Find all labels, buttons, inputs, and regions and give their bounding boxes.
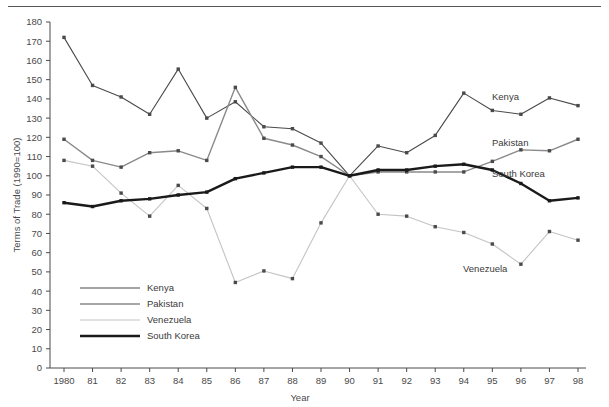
data-point-pakistan-1981 xyxy=(91,159,94,162)
y-axis-tick-label: 60 xyxy=(31,247,42,258)
data-point-pakistan-1993 xyxy=(434,170,437,173)
data-point-kenya-1984 xyxy=(177,67,180,70)
y-axis-tick-label: 130 xyxy=(26,113,42,124)
data-point-venezuela-1996 xyxy=(519,263,522,266)
data-point-south-korea-1989 xyxy=(319,165,322,168)
data-point-kenya-1981 xyxy=(91,84,94,87)
x-axis-tick-label: 98 xyxy=(573,375,584,386)
data-point-pakistan-1989 xyxy=(319,155,322,158)
data-point-venezuela-1995 xyxy=(491,242,494,245)
data-point-venezuela-1998 xyxy=(576,238,579,241)
data-point-south-korea-1980 xyxy=(62,201,65,204)
series-end-label-venezuela: Venezuela xyxy=(463,263,508,274)
data-point-kenya-1997 xyxy=(548,96,551,99)
y-axis-tick-label: 30 xyxy=(31,305,42,316)
data-point-pakistan-1985 xyxy=(205,159,208,162)
data-point-pakistan-1984 xyxy=(177,149,180,152)
data-point-kenya-1986 xyxy=(234,100,237,103)
x-axis-tick-label: 96 xyxy=(516,375,527,386)
y-axis-tick-label: 170 xyxy=(26,36,42,47)
data-point-south-korea-1992 xyxy=(405,168,408,171)
data-point-kenya-1998 xyxy=(576,104,579,107)
y-axis-tick-label: 120 xyxy=(26,132,42,143)
y-axis-tick-label: 140 xyxy=(26,93,42,104)
y-axis-tick-label: 150 xyxy=(26,74,42,85)
y-axis-tick-label: 160 xyxy=(26,55,42,66)
data-point-venezuela-1994 xyxy=(462,231,465,234)
x-axis-tick-label: 97 xyxy=(544,375,555,386)
terms-of-trade-line-chart: 0102030405060708090100110120130140150160… xyxy=(0,0,609,407)
y-axis-tick-label: 20 xyxy=(31,324,42,335)
data-point-venezuela-1987 xyxy=(262,269,265,272)
data-point-venezuela-1991 xyxy=(376,213,379,216)
data-point-south-korea-1994 xyxy=(462,163,465,166)
x-axis-tick-label: 84 xyxy=(173,375,184,386)
data-point-venezuela-1989 xyxy=(319,221,322,224)
y-axis-tick-label: 40 xyxy=(31,286,42,297)
data-point-kenya-1989 xyxy=(319,141,322,144)
data-point-pakistan-1997 xyxy=(548,149,551,152)
data-point-south-korea-1987 xyxy=(262,171,265,174)
data-point-venezuela-1983 xyxy=(148,214,151,217)
data-point-south-korea-1988 xyxy=(291,165,294,168)
x-axis-tick-label: 93 xyxy=(430,375,441,386)
data-point-pakistan-1982 xyxy=(119,165,122,168)
data-point-venezuela-1982 xyxy=(119,191,122,194)
data-point-pakistan-1995 xyxy=(491,160,494,163)
x-axis-title: Year xyxy=(290,392,309,403)
series-end-label-pakistan: Pakistan xyxy=(492,137,528,148)
data-point-venezuela-1981 xyxy=(91,164,94,167)
x-axis-tick-label: 81 xyxy=(87,375,98,386)
data-point-kenya-1980 xyxy=(62,36,65,39)
chart-page: 0102030405060708090100110120130140150160… xyxy=(0,0,609,407)
x-axis-tick-label: 92 xyxy=(401,375,412,386)
data-point-venezuela-1993 xyxy=(434,225,437,228)
data-point-pakistan-1980 xyxy=(62,138,65,141)
data-point-pakistan-1983 xyxy=(148,151,151,154)
series-end-label-kenya: Kenya xyxy=(492,91,520,102)
x-axis-tick-label: 91 xyxy=(373,375,384,386)
data-point-kenya-1988 xyxy=(291,127,294,130)
y-axis-title: Terms of Trade (1990=100) xyxy=(11,138,22,253)
data-point-pakistan-1998 xyxy=(576,138,579,141)
data-point-venezuela-1986 xyxy=(234,281,237,284)
x-axis-tick-label: 94 xyxy=(458,375,469,386)
x-axis-tick-label: 95 xyxy=(487,375,498,386)
data-point-pakistan-1994 xyxy=(462,170,465,173)
data-point-kenya-1995 xyxy=(491,109,494,112)
data-point-south-korea-1993 xyxy=(434,164,437,167)
data-point-south-korea-1982 xyxy=(119,199,122,202)
y-axis-tick-label: 50 xyxy=(31,266,42,277)
y-axis-tick-label: 80 xyxy=(31,209,42,220)
x-axis-tick-label: 82 xyxy=(116,375,127,386)
x-axis-tick-label: 88 xyxy=(287,375,298,386)
data-point-south-korea-1984 xyxy=(177,193,180,196)
data-point-south-korea-1981 xyxy=(91,205,94,208)
data-point-kenya-1987 xyxy=(262,125,265,128)
legend-label-south-korea: South Korea xyxy=(147,330,201,341)
data-point-pakistan-1996 xyxy=(519,148,522,151)
y-axis-tick-label: 100 xyxy=(26,170,42,181)
x-axis-tick-label: 83 xyxy=(144,375,155,386)
series-end-label-south-korea: South Korea xyxy=(492,168,546,179)
data-point-kenya-1994 xyxy=(462,91,465,94)
data-point-south-korea-1991 xyxy=(376,168,379,171)
x-axis-tick-label: 87 xyxy=(259,375,270,386)
data-point-south-korea-1997 xyxy=(548,199,551,202)
legend-label-venezuela: Venezuela xyxy=(147,314,192,325)
data-point-pakistan-1987 xyxy=(262,137,265,140)
chart-svg: 0102030405060708090100110120130140150160… xyxy=(0,0,609,407)
legend-label-pakistan: Pakistan xyxy=(147,298,183,309)
data-point-venezuela-1984 xyxy=(177,184,180,187)
data-point-venezuela-1985 xyxy=(205,207,208,210)
data-point-venezuela-1988 xyxy=(291,277,294,280)
data-point-pakistan-1988 xyxy=(291,143,294,146)
data-point-kenya-1982 xyxy=(119,95,122,98)
legend-label-kenya: Kenya xyxy=(147,282,175,293)
data-point-venezuela-1992 xyxy=(405,214,408,217)
data-point-south-korea-1990 xyxy=(348,174,351,177)
data-point-kenya-1993 xyxy=(434,134,437,137)
data-point-pakistan-1986 xyxy=(234,86,237,89)
y-axis-tick-label: 110 xyxy=(27,151,42,162)
x-axis-tick-label: 85 xyxy=(201,375,212,386)
